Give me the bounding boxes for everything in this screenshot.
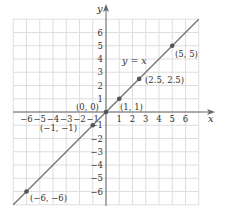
line-chart: −6−5−4−3−2−1123456−6−5−4−3−2−1123456 x y… <box>0 0 229 214</box>
y-axis-label: y <box>96 3 103 14</box>
x-tick-label: 1 <box>117 114 122 124</box>
data-point-marker <box>137 77 142 82</box>
y-tick-label: −3 <box>90 147 103 157</box>
y-tick-label: 6 <box>98 28 103 38</box>
x-axis-label: x <box>208 113 214 124</box>
y-tick-label: −2 <box>90 134 103 144</box>
x-tick-label: 4 <box>156 114 161 124</box>
y-tick-label: 4 <box>98 54 103 64</box>
point-label-1: (1, 1) <box>120 102 143 112</box>
x-tick-label: 2 <box>130 114 135 124</box>
point-label-5: (5, 5) <box>175 49 198 59</box>
point-label-neg1: (−1, −1) <box>40 123 77 133</box>
y-tick-label: 5 <box>98 41 103 51</box>
point-label-neg6: (−6, −6) <box>30 193 67 203</box>
data-point-marker <box>117 96 122 101</box>
x-tick-label: −6 <box>20 114 33 124</box>
point-label-2-5: (2.5, 2.5) <box>145 75 184 85</box>
x-tick-label: 3 <box>143 114 148 124</box>
data-point-marker <box>104 110 109 115</box>
data-point-marker <box>90 123 95 128</box>
y-tick-label: 3 <box>98 67 103 77</box>
x-tick-label: 5 <box>170 114 175 124</box>
data-point-marker <box>24 189 29 194</box>
data-point-marker <box>170 43 175 48</box>
y-tick-label: −4 <box>90 160 103 170</box>
y-tick-label: 2 <box>98 81 103 91</box>
equation-label: y = x <box>121 55 147 66</box>
x-tick-label: 6 <box>183 114 188 124</box>
y-tick-label: −5 <box>90 173 103 183</box>
y-tick-label: −6 <box>90 187 103 197</box>
point-label-origin: (0, 0) <box>76 102 99 112</box>
axes <box>13 4 215 206</box>
